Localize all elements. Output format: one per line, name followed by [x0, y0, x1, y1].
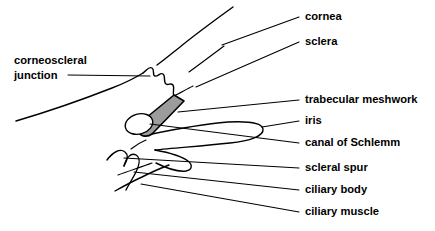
- labels-group: corneoscleral junction cornea sclera tra…: [13, 10, 418, 217]
- label-corneoscleral-junction-line1: corneoscleral: [14, 54, 87, 66]
- ciliary-process-stroke-1: [131, 140, 146, 149]
- anatomical-diagram: corneoscleral junction cornea sclera tra…: [0, 0, 435, 231]
- cornea-inner-surface: [189, 46, 224, 72]
- label-canal-of-schlemm: canal of Schlemm: [305, 136, 400, 148]
- label-scleral-spur: scleral spur: [305, 161, 368, 173]
- leader-line-canal-of-schlemm: [150, 124, 299, 143]
- scleral-outer-edge: [174, 86, 193, 96]
- leader-lines-group: [68, 17, 299, 212]
- corneoscleral-junction-notch: [143, 67, 174, 96]
- label-sclera: sclera: [305, 35, 338, 47]
- label-ciliary-body: ciliary body: [305, 183, 368, 195]
- label-corneoscleral-junction-line2: junction: [13, 69, 58, 81]
- label-trabecular-meshwork: trabecular meshwork: [305, 93, 418, 105]
- leader-line-cornea: [222, 17, 299, 45]
- cornea-outline: [157, 7, 233, 65]
- leader-line-sclera: [196, 42, 299, 87]
- label-iris: iris: [305, 114, 322, 126]
- label-ciliary-muscle: ciliary muscle: [305, 205, 379, 217]
- leader-line-scleral-spur: [124, 158, 299, 168]
- label-cornea: cornea: [305, 10, 342, 22]
- leader-line-trabecular-meshwork: [178, 100, 299, 112]
- eye-angle-figure: corneoscleral junction cornea sclera tra…: [0, 0, 435, 231]
- leader-line-iris: [262, 121, 299, 127]
- leader-line-corneoscleral-junction: [68, 75, 150, 76]
- leader-line-ciliary-muscle: [141, 184, 299, 212]
